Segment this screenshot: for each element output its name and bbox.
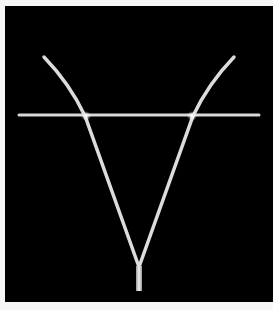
v-shape-figure	[0, 0, 273, 310]
left-arm	[44, 57, 139, 267]
right-intersection-glow	[187, 111, 197, 121]
stem	[136, 266, 142, 291]
left-intersection-glow	[81, 111, 91, 121]
right-arm	[139, 57, 234, 267]
